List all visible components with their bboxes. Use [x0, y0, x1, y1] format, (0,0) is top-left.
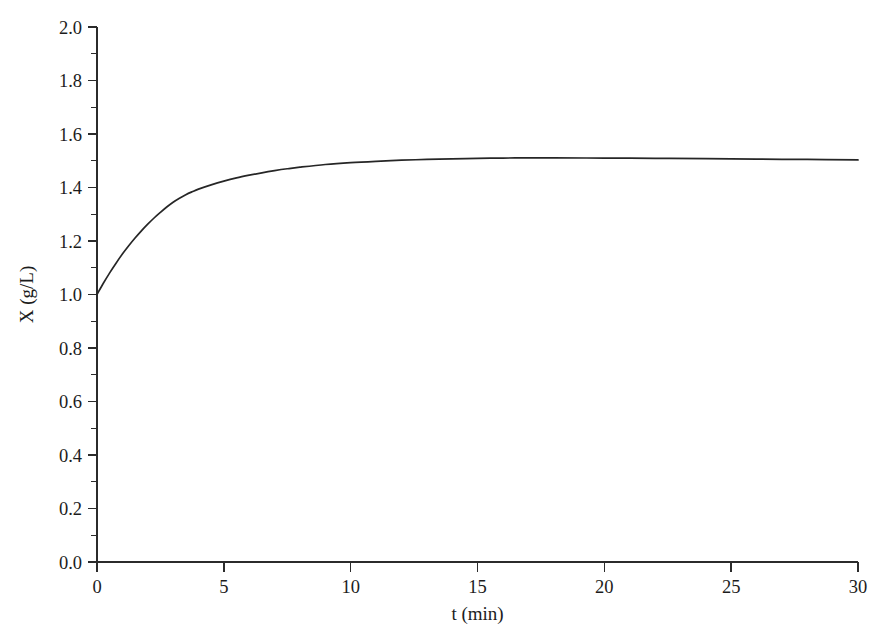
- y-axis-tick-label: 0.6: [59, 392, 82, 412]
- y-axis-tick-label: 1.4: [59, 178, 82, 198]
- x-axis-title: t (min): [451, 603, 503, 625]
- y-axis-tick-label: 1.0: [59, 285, 82, 305]
- x-axis-tick-label: 5: [219, 577, 228, 597]
- y-axis-tick-label: 2.0: [59, 18, 82, 38]
- x-axis-tick-label: 25: [722, 577, 741, 597]
- x-axis-tick-label: 15: [468, 577, 487, 597]
- y-axis-tick-label: 1.8: [59, 71, 82, 91]
- chart-background: [0, 0, 882, 641]
- y-axis-tick-label: 0.0: [59, 553, 82, 573]
- y-axis-tick-label: 1.6: [59, 125, 82, 145]
- y-axis-tick-label: 0.8: [59, 339, 82, 359]
- x-axis-tick-label: 30: [849, 577, 868, 597]
- chart-figure: 0.00.20.40.60.81.01.21.41.61.82.0 051015…: [0, 0, 882, 641]
- y-axis-tick-label: 0.4: [59, 446, 82, 466]
- y-axis-title: X (g/L): [16, 266, 38, 324]
- x-axis-tick-label: 0: [92, 577, 101, 597]
- y-axis-tick-label: 0.2: [59, 499, 82, 519]
- x-axis-tick-label: 10: [341, 577, 360, 597]
- x-axis-tick-label: 20: [595, 577, 614, 597]
- line-chart: 0.00.20.40.60.81.01.21.41.61.82.0 051015…: [0, 0, 882, 641]
- y-axis-tick-label: 1.2: [59, 232, 82, 252]
